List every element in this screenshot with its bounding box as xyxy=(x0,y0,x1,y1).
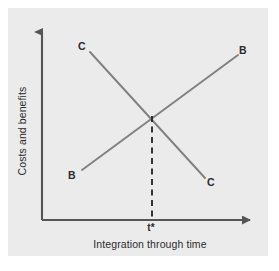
benefits-curve-start-label: B xyxy=(68,169,76,181)
benefits-curve-end-label: B xyxy=(239,44,247,56)
costs-curve-line xyxy=(90,52,205,178)
x-axis-label: Integration through time xyxy=(42,238,258,250)
benefits-curve-line xyxy=(82,55,238,170)
costs-curve-end-label: C xyxy=(207,176,215,188)
t-star-tick-label: t* xyxy=(126,222,176,233)
y-axis-label: Costs and benefits xyxy=(16,76,28,186)
figure-root: Costs and benefits Integration through t… xyxy=(0,0,279,271)
costs-curve-start-label: C xyxy=(78,40,86,52)
